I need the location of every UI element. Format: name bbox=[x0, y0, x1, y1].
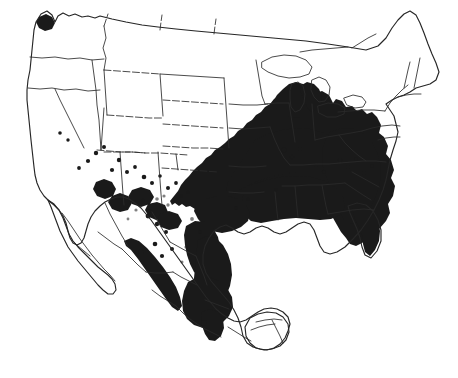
occurrence-dot bbox=[160, 254, 164, 258]
distribution-map-figure bbox=[0, 0, 458, 378]
occurrence-dot bbox=[362, 171, 366, 175]
occurrence-dot bbox=[338, 158, 342, 162]
occurrence-dot bbox=[174, 181, 178, 185]
occurrence-dot bbox=[86, 159, 90, 163]
occurrence-dot bbox=[66, 138, 69, 141]
occurrence-dot bbox=[77, 166, 81, 170]
occurrence-dot bbox=[133, 165, 137, 169]
occurrence-dot bbox=[150, 181, 154, 185]
occurrence-dot bbox=[102, 145, 106, 149]
occurrence-dot bbox=[138, 249, 143, 254]
occurrence-dot bbox=[58, 131, 62, 135]
occurrence-dot bbox=[282, 148, 287, 153]
occurrence-dot bbox=[370, 164, 374, 168]
occurrence-dot bbox=[346, 165, 350, 169]
occurrence-dot bbox=[354, 157, 358, 161]
occurrence-dot bbox=[110, 168, 114, 172]
occurrence-dot bbox=[298, 147, 302, 151]
occurrence-dot bbox=[184, 300, 189, 305]
occurrence-dot bbox=[153, 242, 158, 247]
north-america-map bbox=[0, 0, 458, 378]
occurrence-dot bbox=[201, 320, 207, 326]
occurrence-dot bbox=[166, 186, 170, 190]
occurrence-dot bbox=[290, 155, 294, 159]
occurrence-dot bbox=[94, 151, 98, 155]
occurrence-dot bbox=[142, 175, 147, 180]
occurrence-dot bbox=[322, 170, 326, 174]
occurrence-dot bbox=[125, 170, 129, 174]
